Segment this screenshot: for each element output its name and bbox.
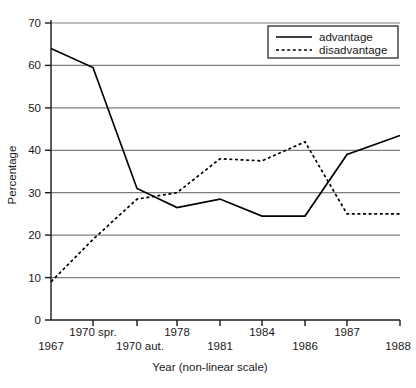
x-tick-label: 1970 aut. [116, 340, 164, 352]
x-tick-label: 1986 [292, 340, 318, 352]
y-tick-label: 50 [28, 102, 41, 114]
x-tick-label: 1984 [249, 326, 275, 338]
y-tick-label: 0 [35, 314, 41, 326]
y-tick-label: 70 [28, 17, 41, 29]
legend-label-advantage: advantage [319, 31, 373, 43]
line-chart: 0 10 20 30 40 50 60 70 Percentage 1967 1… [0, 0, 416, 388]
x-tick-label: 1987 [334, 326, 360, 338]
x-tick-label: 1981 [207, 340, 233, 352]
y-axis-title: Percentage [6, 146, 18, 205]
x-axis-title: Year (non-linear scale) [152, 361, 267, 373]
y-tick-label: 10 [28, 272, 41, 284]
y-tick-label: 20 [28, 229, 41, 241]
legend: advantage disadvantage [268, 26, 398, 58]
y-tick-label: 30 [28, 187, 41, 199]
y-tick-label: 60 [28, 59, 41, 71]
legend-label-disadvantage: disadvantage [319, 44, 387, 56]
x-tick-label: 1978 [164, 326, 190, 338]
chart-container: 0 10 20 30 40 50 60 70 Percentage 1967 1… [0, 0, 416, 388]
y-tick-label: 40 [28, 144, 41, 156]
x-tick-label: 1970 spr. [69, 326, 116, 338]
x-tick-label: 1988 [385, 340, 411, 352]
x-tick-label: 1967 [38, 340, 64, 352]
